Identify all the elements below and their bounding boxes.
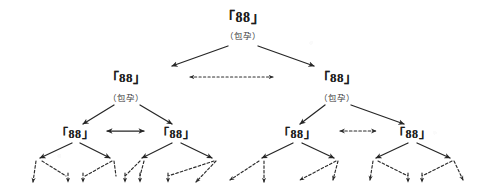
branch-root-to-l2-left — [172, 46, 228, 66]
node-l3-c: 「88」 — [278, 124, 316, 142]
terminal-group-l3a — [33, 143, 116, 182]
branch-l2right-to-l3c — [300, 105, 325, 124]
terminal-group-l3d — [370, 143, 463, 182]
node-l3-b: 「88」 — [157, 124, 195, 142]
terminal-group-l3b — [125, 143, 216, 182]
node-l3-d: 「88」 — [393, 124, 431, 142]
branch-l2left-to-l3b — [140, 105, 172, 124]
node-l2-left-embedding-label: （包孕） — [108, 91, 144, 103]
tree-diagram-canvas: 「88」 （包孕） 「88」 （包孕） 「88」 （包孕） 「88」 「88」 … — [0, 0, 494, 195]
node-l2-right: 「88」 — [317, 67, 358, 86]
node-l2-right-embedding-label: （包孕） — [319, 91, 355, 103]
terminal-group-l3c — [230, 143, 338, 182]
node-root-embedding-label: （包孕） — [225, 29, 261, 41]
branch-l2right-to-l3d — [351, 105, 404, 124]
branch-root-to-l2-right — [258, 46, 314, 66]
node-l2-left: 「88」 — [106, 67, 147, 86]
node-l3-a: 「88」 — [56, 124, 94, 142]
branch-l2left-to-l3a — [83, 105, 114, 124]
node-root: 「88」 — [221, 6, 265, 26]
